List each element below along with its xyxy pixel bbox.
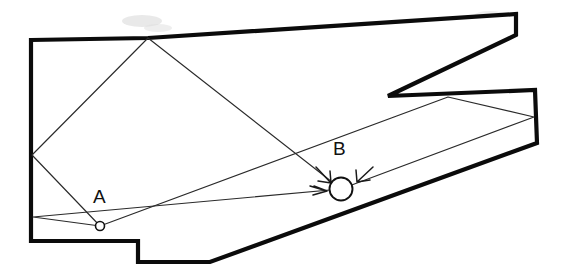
scan-smudge-secondary-icon	[144, 24, 172, 32]
point-marker-b	[330, 178, 353, 201]
room-boundary-polygon	[31, 14, 537, 262]
figure-root: A B	[0, 0, 563, 272]
point-label-a: A	[93, 186, 106, 207]
ray-diagram-svg: A B	[0, 0, 563, 272]
point-label-b: B	[333, 138, 346, 159]
point-marker-a	[96, 222, 105, 231]
